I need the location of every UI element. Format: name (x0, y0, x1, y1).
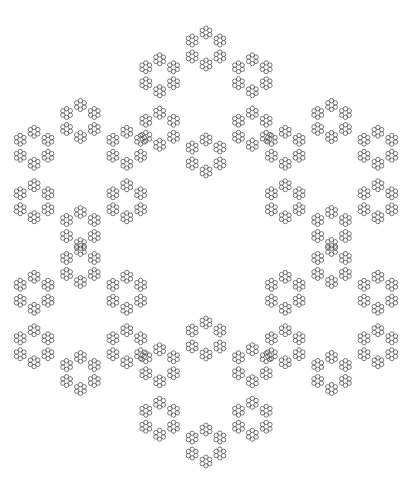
fractal-canvas (0, 0, 411, 492)
background (0, 0, 411, 492)
